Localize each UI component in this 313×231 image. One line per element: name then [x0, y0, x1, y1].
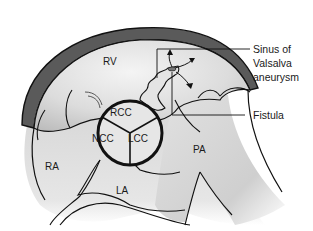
callout-aneurysm-line2: Valsalva [253, 57, 292, 69]
label-la: LA [116, 185, 129, 196]
callout-fistula: Fistula [253, 109, 284, 121]
label-lcc: LCC [128, 133, 148, 144]
label-rcc: RCC [110, 107, 132, 118]
heart-diagram: RV RCC NCC LCC RA LA PA Sinus of Valsalv… [0, 0, 313, 231]
label-pa: PA [193, 144, 206, 155]
label-ncc: NCC [92, 133, 114, 144]
label-rv: RV [103, 56, 117, 67]
label-ra: RA [45, 161, 59, 172]
callout-aneurysm-line1: Sinus of [253, 43, 291, 55]
callout-aneurysm-line3: aneurysm [253, 71, 299, 83]
diagram-canvas: RV RCC NCC LCC RA LA PA Sinus of Valsalv… [0, 0, 313, 231]
fistula-opening [168, 67, 176, 71]
